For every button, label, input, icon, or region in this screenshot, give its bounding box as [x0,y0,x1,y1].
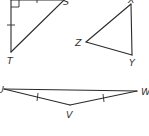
side-uv [4,89,70,105]
side-uw [4,89,137,91]
triangle-xyz: X Z Y [74,0,136,68]
vertex-label-y: Y [129,57,136,68]
triangles-canvas: S T X Z Y U V W [0,0,149,136]
right-triangle-hypotenuse [11,0,64,52]
geometry-figure: S T X Z Y U V W [0,0,149,136]
right-angle-mark [11,0,19,7]
side-xz [86,4,131,42]
vertex-label-u: U [0,84,4,95]
vertex-label-z: Z [74,37,82,48]
vertex-label-s: S [63,0,69,7]
uv-tick [37,93,38,101]
side-zy [86,42,132,55]
vertex-label-v: V [66,109,74,120]
vertex-label-w: W [141,86,149,97]
side-xy [131,4,132,55]
right-triangle: S T [7,0,69,66]
triangle-uvw: U V W [0,84,149,120]
vertex-label-t: T [7,55,14,66]
vw-tick [103,94,104,102]
vertex-label-x: X [127,0,135,5]
